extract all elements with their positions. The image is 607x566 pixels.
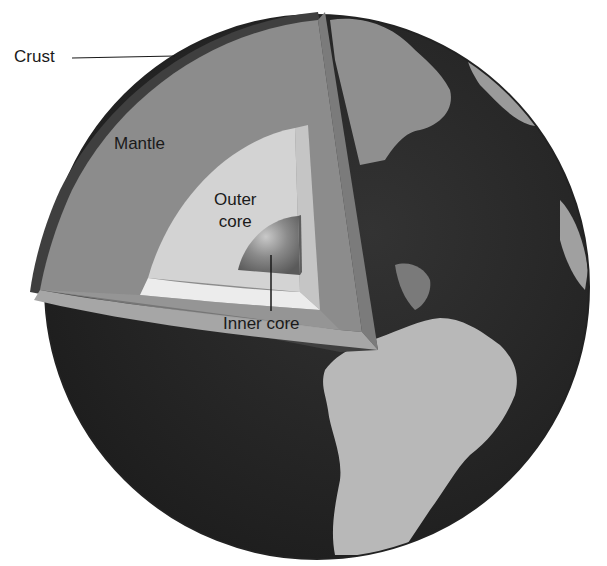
outer-core-label-line2: core (214, 211, 257, 233)
outer-core-label: Outer core (214, 189, 257, 233)
cutaway-wedge (30, 12, 378, 352)
south-america-landmass (323, 318, 517, 555)
crust-leader-line (72, 56, 175, 58)
crust-label: Crust (14, 47, 55, 66)
outer-core-label-line1: Outer (214, 189, 257, 211)
earth-globe-illustration (0, 0, 607, 566)
earth-layers-diagram: Crust Mantle Outer core Inner core (0, 0, 607, 566)
mantle-label: Mantle (114, 134, 165, 153)
inner-core-label: Inner core (223, 314, 300, 333)
